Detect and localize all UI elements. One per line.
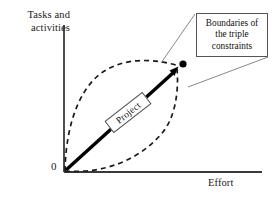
boundaries-callout-box: Boundaries of the triple constraints: [196, 13, 268, 57]
x-axis-label: Effort: [208, 177, 233, 190]
y-axis-label: Tasks and activities: [8, 9, 70, 34]
boundary-convergence-point: [179, 60, 186, 67]
figure-container: Tasks and activities Effort 0 Boundaries…: [0, 0, 276, 199]
boundaries-callout-text: Boundaries of the triple constraints: [206, 18, 258, 52]
callout-leader-line-upper: [161, 14, 195, 63]
callout-leader-line-lower: [188, 57, 268, 87]
origin-label: 0: [51, 160, 57, 172]
